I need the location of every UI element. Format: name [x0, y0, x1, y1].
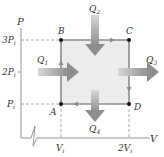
tick-3pi: 3Pi [2, 35, 16, 46]
v-axis-label: V [150, 133, 159, 144]
tick-2pi: 2Pi [1, 67, 16, 78]
point-a [59, 102, 63, 106]
label-c: C [126, 26, 133, 36]
point-b [59, 38, 63, 42]
point-c [127, 38, 131, 42]
label-q2: Q2 [89, 4, 100, 15]
label-a: A [49, 107, 57, 117]
label-q1: Q1 [37, 55, 48, 66]
tick-vi: Vi [56, 143, 65, 154]
pv-diagram: P V 3Pi 2Pi Pi Vi 2Vi A B C D Q1 Q2 Q3 Q… [0, 0, 164, 157]
point-d [127, 102, 131, 106]
label-q3: Q3 [146, 55, 157, 66]
tick-2vi: 2Vi [117, 143, 132, 154]
v-axis [21, 126, 150, 146]
p-axis-label: P [16, 16, 24, 27]
tick-pi: Pi [6, 99, 15, 110]
label-b: B [57, 26, 65, 36]
label-q4: Q4 [89, 124, 100, 135]
label-d: D [133, 102, 141, 112]
